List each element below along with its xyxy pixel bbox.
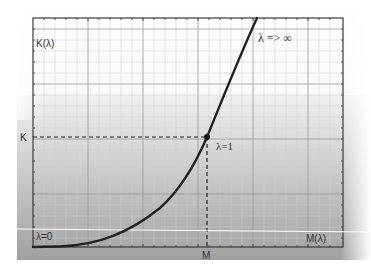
lambda-infinity-label: λ => ∞ (258, 31, 292, 45)
y-axis-label: K(λ) (36, 38, 54, 49)
lambda-one-point (204, 134, 210, 140)
m-tick-label: M (202, 250, 210, 261)
lambda-one-label: λ=1 (216, 140, 233, 152)
chart: K(λ) K λ=0 λ=1 λ => ∞ M M(λ) (0, 0, 371, 280)
x-axis-label: M(λ) (306, 233, 326, 244)
k-tick-label: K (20, 132, 27, 143)
lambda-zero-label: λ=0 (36, 231, 53, 242)
